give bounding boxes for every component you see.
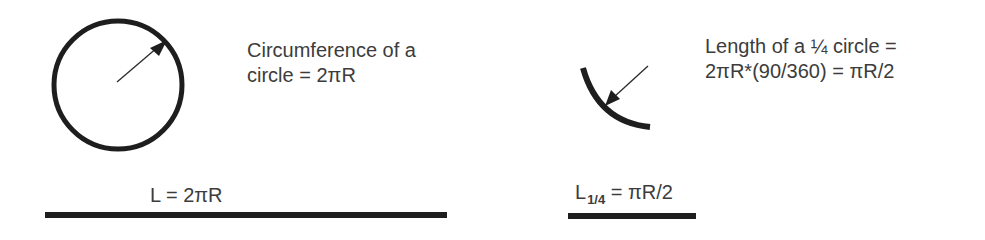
quarter-arc-label-line1: Length of a ¼ circle = (705, 34, 897, 59)
quarter-length-rest: = πR/2 (605, 181, 673, 203)
circumference-length-line (45, 212, 447, 218)
circumference-length-text: L = 2πR (150, 184, 223, 206)
circumference-label: Circumference of a circle = 2πR (247, 38, 416, 88)
quarter-length-subscript: 1/4 (587, 192, 605, 207)
quarter-arc-label-line2: 2πR*(90/360) = πR/2 (705, 59, 897, 84)
quarter-length-label: L1/4 = πR/2 (575, 180, 673, 207)
quarter-length-main: L (575, 181, 586, 203)
quarter-circle-figure (583, 66, 650, 127)
quarter-arc-label: Length of a ¼ circle = 2πR*(90/360) = πR… (705, 34, 897, 84)
radius-arrow-icon (117, 47, 158, 82)
arc-arrow-icon (614, 66, 648, 97)
circumference-label-line2: circle = 2πR (247, 63, 416, 88)
circumference-label-line1: Circumference of a (247, 38, 416, 63)
circumference-length-label: L = 2πR (150, 183, 223, 208)
arc-arrowhead-icon (605, 90, 620, 106)
full-circle-icon (54, 21, 182, 149)
quarter-length-line (568, 213, 696, 219)
radius-arrowhead-icon (150, 40, 167, 56)
full-circle-figure (54, 21, 182, 149)
